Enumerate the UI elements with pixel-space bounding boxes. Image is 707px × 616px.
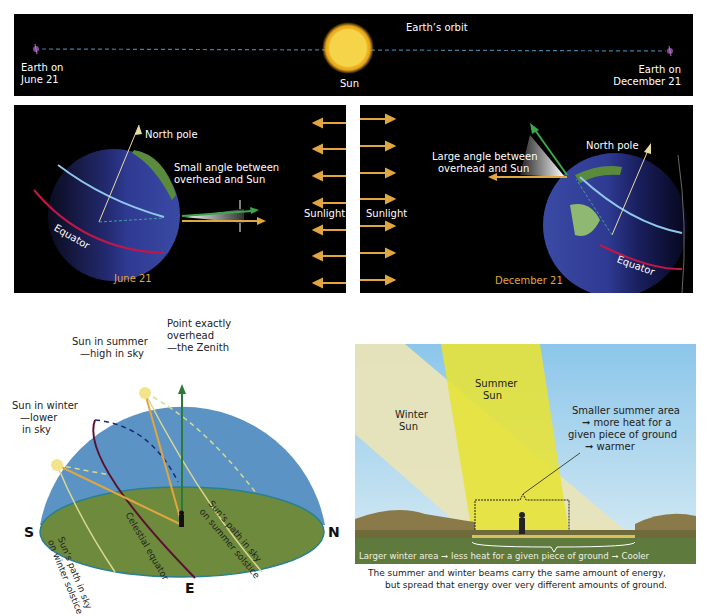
angle-note-2: overhead and Sun [174,174,265,186]
earth-december-icon [667,46,673,56]
orbit-banner: Earth’s orbit Sun Earth on June 21 Earth… [14,14,693,96]
summer-sun-icon [139,387,151,399]
summer-sun-label-2: —high in sky [80,348,144,360]
summer-note-4: ➞ warmer [585,441,635,453]
june-panel: North pole Small angle between overhead … [14,105,346,293]
sunlight-arrows [360,115,394,284]
summer-note-2: ➞ more heat for a [582,417,671,429]
winter-sun-icon [51,459,63,471]
earth-june-label-2: June 21 [21,74,59,86]
winter-note: Larger winter area ➞ less heat for a giv… [359,550,649,562]
sunlight-arrows [314,119,346,287]
observer-icon [179,515,184,527]
zenith-label-1: Point exactly [167,318,231,330]
sun-beam-diagram: Summer Sun Winter Sun Smaller summer are… [355,344,696,564]
south-label: S [24,526,34,538]
summer-sun-label-1: Summer [475,378,517,390]
sky-dome-diagram: Point exactly overhead —the Zenith Sun i… [0,310,360,614]
angle-note-1: Small angle between [174,162,279,174]
caption-line-2: but spread that energy over very differe… [385,579,667,591]
summer-sun-label-2: Sun [483,390,502,402]
earth-june-icon [33,44,39,54]
north-pole-label: North pole [586,140,639,152]
caption-line-1: The summer and winter beams carry the sa… [368,567,666,579]
orbit-label: Earth’s orbit [406,22,468,34]
sun-label: Sun [340,78,359,90]
angle-note-2: overhead and Sun [438,163,529,175]
east-label: E [185,582,195,594]
sunlight-label: Sunlight [366,208,407,220]
angle-note-1: Large angle between [432,151,537,163]
summer-note-1: Smaller summer area [572,405,680,417]
winter-sun-label-3: in sky [22,424,51,436]
december-panel: North pole Large angle between overhead … [360,105,693,293]
date-label: June 21 [114,273,152,285]
winter-sun-label-2: —lower [20,412,57,424]
date-label: December 21 [495,275,563,287]
sunlight-label: Sunlight [304,208,345,220]
north-label: N [328,526,340,538]
winter-sun-label-2: Sun [399,421,418,433]
earth-december-label-2: December 21 [613,76,681,88]
person-icon [519,518,525,534]
north-pole-label: North pole [145,129,198,141]
winter-sun-label-1: Winter [395,409,428,421]
summer-note-3: given piece of ground [568,429,677,441]
zenith-label-3: —the Zenith [167,342,229,354]
earth-december-label-1: Earth on [639,64,681,76]
zenith-label-2: overhead [167,330,214,342]
summer-sun-label-1: Sun in summer [72,336,148,348]
earth-june-label-1: Earth on [21,62,63,74]
winter-sun-label-1: Sun in winter [12,400,78,412]
